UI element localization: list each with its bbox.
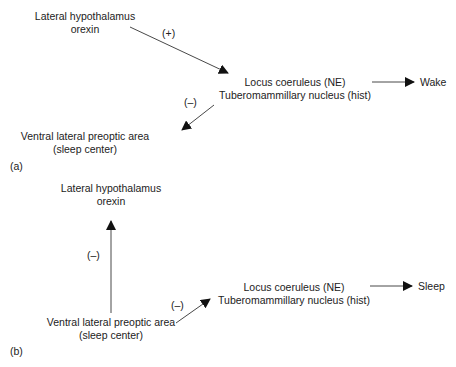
- node-label: Lateral hypothalamus: [30, 10, 140, 23]
- node-vlpo-b: Ventral lateral preoptic area (sleep cen…: [36, 316, 186, 342]
- node-vlpo-a: Ventral lateral preoptic area (sleep cen…: [10, 130, 160, 156]
- node-sublabel: Tuberomammillary nucleus (hist): [214, 294, 374, 307]
- node-label: Locus coeruleus (NE): [214, 281, 374, 294]
- node-lateral-hypothalamus-a: Lateral hypothalamus orexin: [30, 10, 140, 36]
- node-locus-coeruleus-a: Locus coeruleus (NE) Tuberomammillary nu…: [215, 76, 375, 102]
- sign-minus-a: (–): [184, 96, 197, 109]
- panel-tag-b: (b): [10, 345, 23, 358]
- arrow-lh-to-lc-a: [130, 27, 228, 73]
- sign-minus-b-diagonal: (–): [171, 299, 184, 312]
- outcome-wake: Wake: [420, 76, 446, 89]
- node-sublabel: Tuberomammillary nucleus (hist): [215, 89, 375, 102]
- node-sublabel: (sleep center): [36, 329, 186, 342]
- node-lateral-hypothalamus-b: Lateral hypothalamus orexin: [56, 182, 166, 208]
- node-sublabel: (sleep center): [10, 143, 160, 156]
- node-label: Lateral hypothalamus: [56, 182, 166, 195]
- node-sublabel: orexin: [56, 195, 166, 208]
- panel-tag-a: (a): [10, 160, 23, 173]
- sign-minus-b-vertical: (–): [87, 249, 100, 262]
- node-label: Ventral lateral preoptic area: [10, 130, 160, 143]
- node-sublabel: orexin: [30, 23, 140, 36]
- node-label: Locus coeruleus (NE): [215, 76, 375, 89]
- sign-plus-a: (+): [162, 27, 175, 40]
- outcome-sleep: Sleep: [418, 280, 445, 293]
- node-label: Ventral lateral preoptic area: [36, 316, 186, 329]
- node-locus-coeruleus-b: Locus coeruleus (NE) Tuberomammillary nu…: [214, 281, 374, 307]
